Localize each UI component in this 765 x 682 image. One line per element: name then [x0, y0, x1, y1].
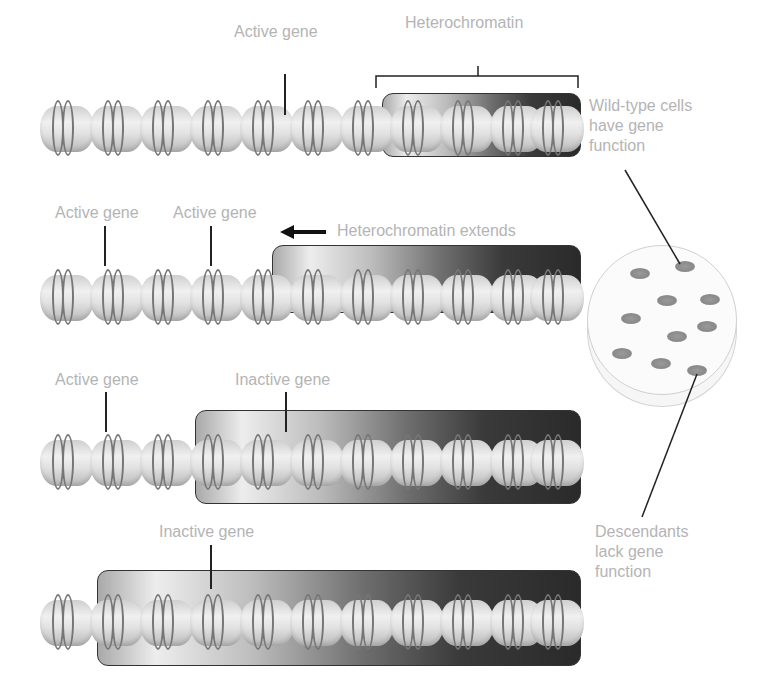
colony: [667, 331, 687, 342]
active-gene-label: Active gene: [173, 203, 257, 222]
colony: [621, 313, 641, 324]
leader-line: [210, 226, 212, 266]
colony: [700, 294, 720, 305]
inactive-gene-label: Inactive gene: [159, 522, 254, 541]
colony: [630, 268, 650, 279]
dish-surface: [587, 245, 737, 395]
colony: [651, 358, 671, 369]
colony: [612, 348, 632, 359]
active-gene-label: Active gene: [234, 22, 318, 41]
colony: [697, 321, 717, 332]
leader-line: [285, 392, 287, 432]
inactive-gene-label: Inactive gene: [235, 370, 330, 389]
leader-line: [210, 545, 212, 589]
descendants-label: Descendants lack gene function: [595, 522, 688, 582]
active-gene-label: Active gene: [55, 370, 139, 389]
petri-dish: [587, 245, 737, 407]
leader-line: [104, 226, 106, 266]
colony-wild-type: [675, 261, 695, 272]
heterochromatin-extends-label: Heterochromatin extends: [337, 221, 516, 240]
active-gene-label: Active gene: [55, 203, 139, 222]
heterochromatin-label: Heterochromatin: [405, 13, 523, 32]
leader-line: [284, 74, 286, 115]
leader-line: [105, 392, 107, 432]
colony: [657, 295, 677, 306]
wild-type-cells-label: Wild-type cells have gene function: [589, 96, 692, 156]
colony-descendant: [687, 365, 707, 376]
